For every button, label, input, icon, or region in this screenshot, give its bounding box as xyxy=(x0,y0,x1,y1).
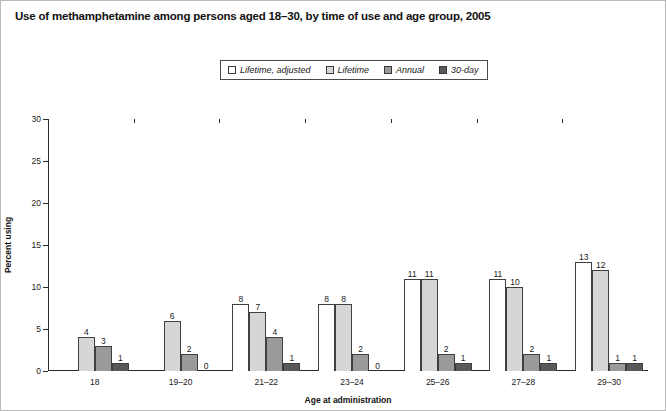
legend-item-0[interactable]: Lifetime, adjusted xyxy=(228,65,311,75)
bar-value-label: 0 xyxy=(204,361,209,371)
bar[interactable]: 11 xyxy=(404,279,421,371)
bar-group-25–26: 11112125–26 xyxy=(404,119,472,371)
bar[interactable]: 1 xyxy=(283,363,300,371)
legend-label: 30-day xyxy=(451,65,479,75)
bar-value-label: 1 xyxy=(289,353,294,363)
bar-value-label: 11 xyxy=(425,269,434,279)
bar-value-label: 0 xyxy=(375,361,380,371)
y-axis-line xyxy=(48,119,49,371)
x-tick-label: 25–26 xyxy=(426,377,450,387)
legend-swatch-icon xyxy=(228,66,236,74)
y-tick-label: 25 xyxy=(32,156,41,166)
y-tick-mark xyxy=(43,329,48,330)
y-tick-mark xyxy=(43,245,48,246)
bar[interactable]: 4 xyxy=(78,337,95,371)
bar[interactable]: 1 xyxy=(626,363,643,371)
x-tick-label: 23–24 xyxy=(340,377,364,387)
chart-title: Use of methamphetamine among persons age… xyxy=(15,10,491,22)
bar[interactable]: 6 xyxy=(164,321,181,371)
bar[interactable]: 8 xyxy=(232,304,249,371)
bar-value-label: 3 xyxy=(101,336,106,346)
bar-value-label: 1 xyxy=(547,353,552,363)
legend-label: Annual xyxy=(396,65,424,75)
bar-value-label: 4 xyxy=(272,327,277,337)
bar-value-label: 7 xyxy=(255,302,260,312)
y-tick-label: 30 xyxy=(32,114,41,124)
bar[interactable]: 1 xyxy=(540,363,557,371)
bar[interactable]: 2 xyxy=(438,354,455,371)
bar[interactable]: 2 xyxy=(352,354,369,371)
y-tick-mark xyxy=(43,203,48,204)
x-group-separator xyxy=(477,119,478,123)
x-tick-label: 29–30 xyxy=(597,377,621,387)
bar-value-label: 8 xyxy=(238,294,243,304)
bar-value-label: 11 xyxy=(494,269,503,279)
bar-value-label: 11 xyxy=(408,269,417,279)
x-group-separator xyxy=(305,119,306,123)
legend-label: Lifetime, adjusted xyxy=(240,65,311,75)
bar-value-label: 10 xyxy=(510,277,519,287)
bar[interactable]: 4 xyxy=(266,337,283,371)
bar[interactable]: 2 xyxy=(181,354,198,371)
bar[interactable]: 2 xyxy=(523,354,540,371)
chart-legend: Lifetime, adjustedLifetimeAnnual30-day xyxy=(220,60,488,80)
bar[interactable]: 1 xyxy=(609,363,626,371)
bar[interactable]: 11 xyxy=(421,279,438,371)
bar[interactable]: 7 xyxy=(249,312,266,371)
y-axis-label: Percent using xyxy=(3,217,13,273)
bar[interactable]: 12 xyxy=(592,270,609,371)
bar-group-19–20: 62019–20 xyxy=(147,119,215,371)
bar[interactable]: 8 xyxy=(335,304,352,371)
bar-value-label: 2 xyxy=(358,344,363,354)
y-tick-mark xyxy=(43,119,48,120)
legend-swatch-icon xyxy=(384,66,392,74)
x-group-separator xyxy=(134,119,135,123)
legend-item-3[interactable]: 30-day xyxy=(439,65,479,75)
bar-group-18: 43118 xyxy=(61,119,129,371)
bar-value-label: 8 xyxy=(341,294,346,304)
plot-area: 051015202530 4311862019–20874121–2288202… xyxy=(48,119,648,371)
y-tick-mark xyxy=(43,287,48,288)
bar-value-label: 8 xyxy=(324,294,329,304)
bar-group-27–28: 11102127–28 xyxy=(489,119,557,371)
x-tick-label: 18 xyxy=(90,377,99,387)
y-tick-label: 10 xyxy=(32,282,41,292)
bar-value-label: 2 xyxy=(530,344,535,354)
x-group-separator xyxy=(391,119,392,123)
y-tick-label: 20 xyxy=(32,198,41,208)
bar[interactable]: 10 xyxy=(506,287,523,371)
x-group-separator xyxy=(219,119,220,123)
bar[interactable]: 1 xyxy=(455,363,472,371)
y-tick-label: 15 xyxy=(32,240,41,250)
legend-swatch-icon xyxy=(439,66,447,74)
x-tick-label: 21–22 xyxy=(254,377,278,387)
bar[interactable]: 13 xyxy=(575,262,592,371)
bar-value-label: 6 xyxy=(170,311,175,321)
bar-value-label: 2 xyxy=(187,344,192,354)
bar-value-label: 1 xyxy=(461,353,466,363)
x-group-separator xyxy=(562,119,563,123)
legend-item-1[interactable]: Lifetime xyxy=(326,65,370,75)
bar[interactable]: 1 xyxy=(112,363,129,371)
bar-value-label: 12 xyxy=(596,260,605,270)
bar-value-label: 2 xyxy=(444,344,449,354)
x-tick-label: 27–28 xyxy=(512,377,536,387)
legend-label: Lifetime xyxy=(338,65,370,75)
bar-value-label: 13 xyxy=(579,252,588,262)
bar[interactable]: 11 xyxy=(489,279,506,371)
legend-item-2[interactable]: Annual xyxy=(384,65,424,75)
x-tick-label: 19–20 xyxy=(169,377,193,387)
bar-group-23–24: 882023–24 xyxy=(318,119,386,371)
bar-value-label: 4 xyxy=(84,327,89,337)
y-tick-label: 0 xyxy=(36,366,41,376)
bar-value-label: 1 xyxy=(118,353,123,363)
bar-value-label: 1 xyxy=(632,353,637,363)
bar-group-29–30: 13121129–30 xyxy=(575,119,643,371)
bar[interactable]: 8 xyxy=(318,304,335,371)
bar-group-21–22: 874121–22 xyxy=(232,119,300,371)
bar-value-label: 1 xyxy=(615,353,620,363)
legend-swatch-icon xyxy=(326,66,334,74)
x-axis-label: Age at administration xyxy=(48,395,648,405)
bar[interactable]: 3 xyxy=(95,346,112,371)
y-tick-mark xyxy=(43,161,48,162)
